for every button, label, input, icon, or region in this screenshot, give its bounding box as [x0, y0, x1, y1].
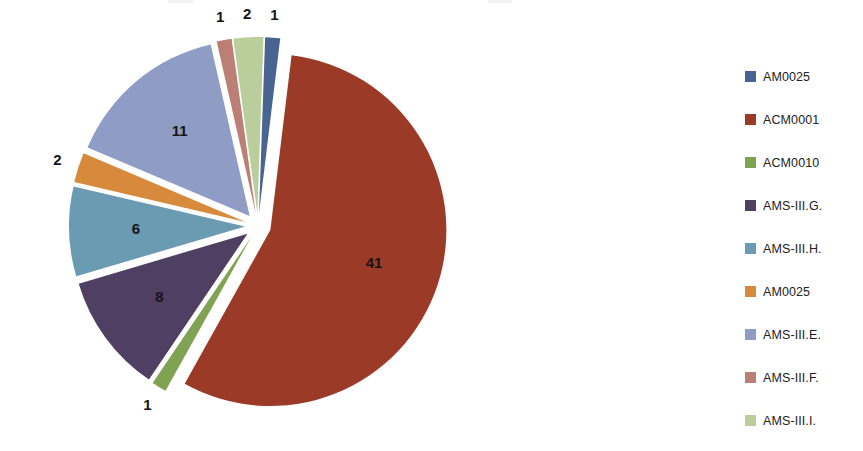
legend-item[interactable]: ACM0001	[745, 98, 863, 141]
legend-item[interactable]: AMS-III.H.	[745, 227, 863, 270]
legend-swatch-icon	[745, 372, 756, 383]
legend-item-label: ACM0001	[763, 113, 819, 127]
legend-item[interactable]: AMS-III.I.	[745, 399, 863, 442]
pie-slice-value-label: 2	[53, 151, 61, 168]
legend-item-label: ACM0010	[763, 156, 819, 170]
legend-swatch-icon	[745, 71, 756, 82]
legend-item[interactable]: AMS-III.E.	[745, 313, 863, 356]
pie-slices	[69, 37, 446, 406]
legend-swatch-icon	[745, 415, 756, 426]
legend-swatch-icon	[745, 157, 756, 168]
pie-slice-value-label: 1	[143, 396, 151, 413]
legend-item[interactable]: AMS-III.F.	[745, 356, 863, 399]
pie-slice-value-label: 2	[243, 5, 251, 22]
legend-swatch-icon	[745, 243, 756, 254]
legend-item[interactable]: AM0025	[745, 270, 863, 313]
legend-swatch-icon	[745, 200, 756, 211]
legend-swatch-icon	[745, 329, 756, 340]
legend-item[interactable]: AMS-III.G.	[745, 184, 863, 227]
pie-chart-figure: 14118621112 AM0025ACM0001ACM0010AMS-III.…	[0, 0, 863, 451]
pie-slice-value-label: 1	[270, 6, 278, 23]
pie-slice-value-label: 41	[366, 254, 383, 271]
pie-svg: 14118621112	[0, 0, 700, 451]
legend-swatch-icon	[745, 286, 756, 297]
pie-slice-value-label: 11	[172, 122, 188, 139]
legend-item[interactable]: ACM0010	[745, 141, 863, 184]
legend-item-label: AMS-III.E.	[763, 328, 821, 342]
legend-item[interactable]: AM0025	[745, 55, 863, 98]
legend-item-label: AM0025	[763, 70, 810, 84]
pie-plot-area: 14118621112	[0, 0, 700, 451]
legend-item-label: AMS-III.F.	[763, 371, 819, 385]
legend-item-label: AM0025	[763, 285, 810, 299]
legend-item-label: AMS-III.H.	[763, 242, 822, 256]
legend-item-label: AMS-III.G.	[763, 199, 822, 213]
legend-swatch-icon	[745, 114, 756, 125]
pie-slice-value-label: 1	[216, 8, 224, 25]
pie-slice-value-label: 8	[155, 288, 163, 305]
pie-slice-value-label: 6	[132, 220, 140, 237]
chart-legend: AM0025ACM0001ACM0010AMS-III.G.AMS-III.H.…	[745, 55, 863, 442]
legend-item-label: AMS-III.I.	[763, 414, 816, 428]
